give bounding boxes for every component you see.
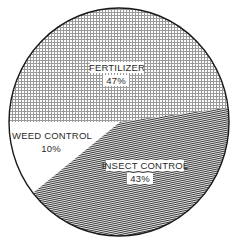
pie-slices [0, 0, 234, 243]
pie-chart: FERTILIZER 47% WEED CONTROL 10% INSECT C… [0, 0, 234, 243]
label-insect-pct: 43% [130, 173, 150, 184]
slice-fertilizer [0, 0, 234, 122]
label-insect-name: INSECT CONTROL [102, 160, 189, 171]
label-fertilizer-pct: 47% [106, 75, 126, 86]
label-weed-pct: 10% [41, 143, 61, 154]
label-weed-name: WEED CONTROL [12, 130, 92, 141]
label-fertilizer-name: FERTILIZER [89, 62, 145, 73]
